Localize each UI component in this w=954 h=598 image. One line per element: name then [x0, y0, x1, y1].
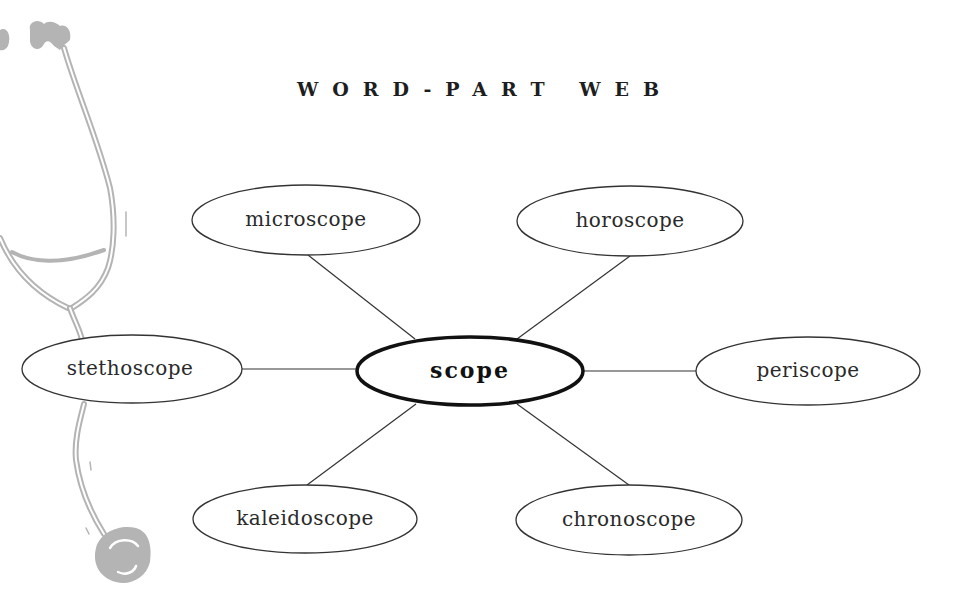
word-part-web-page: WORD-PART WEB scope microscope horoscope… [0, 0, 954, 598]
connector-chronoscope [517, 404, 629, 485]
node-label-horoscope: horoscope [575, 208, 684, 232]
stethoscope-icon [0, 21, 151, 583]
connector-microscope [308, 255, 415, 339]
node-label-stethoscope: stethoscope [67, 356, 194, 380]
node-label-kaleidoscope: kaleidoscope [236, 506, 374, 530]
page-title: WORD-PART WEB [0, 78, 954, 100]
connector-kaleidoscope [307, 404, 416, 485]
node-label-microscope: microscope [245, 207, 366, 231]
connector-horoscope [517, 256, 630, 339]
node-label-periscope: periscope [756, 358, 859, 382]
center-node-label: scope [430, 357, 510, 383]
node-label-chronoscope: chronoscope [562, 507, 696, 531]
